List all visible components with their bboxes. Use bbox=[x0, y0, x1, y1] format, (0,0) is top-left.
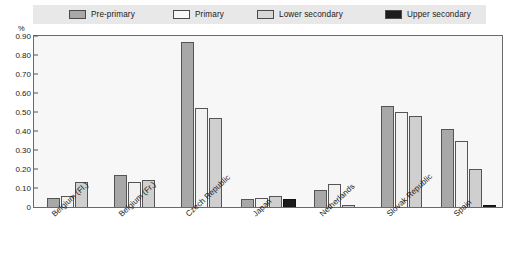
bar-pre-primary[interactable] bbox=[114, 175, 127, 207]
y-axis-tick-mark bbox=[34, 188, 38, 189]
y-axis-tick-label: 0.20 bbox=[1, 165, 31, 174]
bar-pre-primary[interactable] bbox=[381, 106, 394, 207]
y-axis-tick-mark bbox=[34, 131, 38, 132]
legend-label-pre-primary: Pre-primary bbox=[91, 10, 135, 19]
y-axis-tick-mark bbox=[34, 55, 38, 56]
y-axis-tick-label: 0.80 bbox=[1, 51, 31, 60]
y-axis-tick-label: 0.30 bbox=[1, 146, 31, 155]
y-axis-tick-label: 0.70 bbox=[1, 70, 31, 79]
y-axis-tick-mark bbox=[34, 112, 38, 113]
legend-item-primary[interactable]: Primary bbox=[173, 10, 224, 19]
y-axis-tick-mark bbox=[34, 150, 38, 151]
y-axis-labels: 0.900.800.700.600.500.400.300.200.100 bbox=[0, 35, 31, 208]
y-axis-tick-label: 0.50 bbox=[1, 108, 31, 117]
legend-item-upper-secondary[interactable]: Upper secondary bbox=[385, 10, 471, 19]
bar-upper-secondary[interactable] bbox=[483, 205, 496, 207]
y-axis-tick-label: 0.40 bbox=[1, 127, 31, 136]
chart-bars-container bbox=[34, 36, 502, 207]
legend-label-upper-secondary: Upper secondary bbox=[407, 10, 471, 19]
bar-group bbox=[241, 36, 296, 207]
y-axis-tick-mark bbox=[34, 93, 38, 94]
bar-pre-primary[interactable] bbox=[441, 129, 454, 207]
y-axis-tick-label: 0.60 bbox=[1, 89, 31, 98]
legend-label-primary: Primary bbox=[195, 10, 224, 19]
y-axis-tick-label: 0 bbox=[1, 203, 31, 212]
chart-legend: Pre-primary Primary Lower secondary Uppe… bbox=[33, 5, 486, 24]
bar-pre-primary[interactable] bbox=[241, 199, 254, 207]
legend-label-lower-secondary: Lower secondary bbox=[279, 10, 343, 19]
legend-swatch-lower-secondary bbox=[257, 10, 274, 19]
bar-group bbox=[441, 36, 496, 207]
legend-item-pre-primary[interactable]: Pre-primary bbox=[69, 10, 135, 19]
chart-plot-area bbox=[33, 35, 503, 208]
bar-pre-primary[interactable] bbox=[181, 42, 194, 207]
legend-item-lower-secondary[interactable]: Lower secondary bbox=[257, 10, 343, 19]
y-axis-tick-mark bbox=[34, 74, 38, 75]
bar-lower-secondary[interactable] bbox=[342, 205, 355, 207]
y-axis-tick-mark bbox=[34, 36, 38, 37]
bar-upper-secondary[interactable] bbox=[283, 199, 296, 207]
legend-swatch-upper-secondary bbox=[385, 10, 402, 19]
y-axis-tick-label: 0.10 bbox=[1, 184, 31, 193]
y-axis-tick-mark bbox=[34, 169, 38, 170]
legend-swatch-primary bbox=[173, 10, 190, 19]
y-axis-tick-label: 0.90 bbox=[1, 32, 31, 41]
legend-swatch-pre-primary bbox=[69, 10, 86, 19]
